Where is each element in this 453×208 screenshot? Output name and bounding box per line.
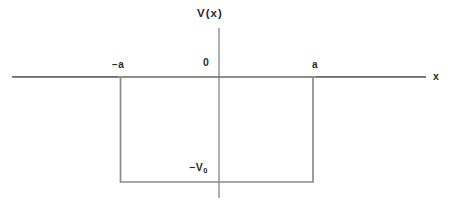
well-depth-main-text: −V: [189, 161, 203, 173]
x-axis-label: x: [433, 71, 439, 82]
potential-well-plot: [0, 0, 453, 208]
tick-label-positive-a: a: [312, 60, 318, 70]
square-well-outline: [121, 77, 314, 182]
well-depth-subscript-text: 0: [203, 166, 207, 175]
origin-label: 0: [203, 57, 209, 68]
tick-label-negative-v0: −V0: [189, 162, 207, 175]
finite-square-well-figure: V(x) 0 −a a −V0 x: [0, 0, 453, 208]
tick-label-negative-a: −a: [112, 60, 124, 70]
y-axis-title-label: V(x): [197, 8, 223, 20]
